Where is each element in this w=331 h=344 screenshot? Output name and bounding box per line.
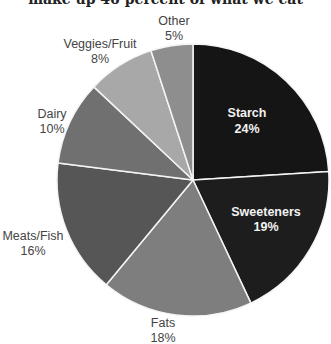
label-fats-name: Fats: [151, 316, 175, 330]
label-sweeteners-value: 19%: [253, 220, 278, 234]
label-other-value: 5%: [165, 29, 183, 43]
label-starch-name: Starch: [228, 106, 267, 120]
label-meats-name: Meats/Fish: [2, 229, 63, 243]
label-veggies-value: 8%: [91, 52, 109, 66]
pie-slices: [57, 44, 329, 316]
label-dairy-name: Dairy: [37, 107, 67, 121]
label-meats-value: 16%: [20, 244, 45, 258]
label-sweeteners-name: Sweeteners: [231, 205, 301, 219]
label-other-name: Other: [158, 14, 189, 28]
label-dairy-value: 10%: [39, 122, 64, 136]
label-starch-value: 24%: [234, 122, 259, 136]
label-veggies-name: Veggies/Fruit: [64, 37, 137, 51]
pie-chart: Starch 24% Sweeteners 19% Fats 18% Meats…: [0, 0, 331, 344]
label-fats-value: 18%: [150, 331, 175, 344]
